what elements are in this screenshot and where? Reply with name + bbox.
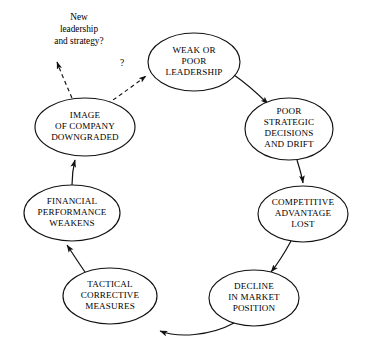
diagram-canvas: WEAK OR POOR LEADERSHIP POOR STRATEGIC D… [0, 0, 366, 350]
node-financial-performance-weakens[interactable]: FINANCIAL PERFORMANCE WEAKENS [24, 185, 120, 241]
edge-financial-to-image [72, 160, 75, 185]
annotation-question-mark: ? [120, 58, 124, 68]
node-label-line: STRATEGIC [264, 117, 314, 127]
node-label-line: LOST [291, 219, 315, 229]
question-mark-label: ? [120, 58, 124, 68]
node-label-line: CORRECTIVE [81, 290, 140, 300]
edge-tactical-to-financial [67, 245, 85, 272]
annotation-line: New [70, 12, 88, 22]
node-label-line: IMAGE [70, 110, 101, 120]
edge-competitive-to-decline [271, 241, 291, 272]
node-tactical-corrective-measures[interactable]: TACTICAL CORRECTIVE MEASURES [63, 268, 157, 324]
annotation-line: leadership [60, 24, 99, 34]
node-decline-in-market-position[interactable]: DECLINE IN MARKET POSITION [209, 270, 299, 326]
edge-strategic-to-competitive [297, 160, 303, 183]
node-poor-strategic-decisions-and-drift[interactable]: POOR STRATEGIC DECISIONS AND DRIFT [245, 98, 333, 160]
edge-image-to-new-leadership [57, 62, 72, 98]
node-label-line: AND DRIFT [264, 139, 314, 149]
node-label-line: DOWNGRADED [51, 132, 119, 142]
node-label-line: DECLINE [234, 281, 274, 291]
node-image-of-company-downgraded[interactable]: IMAGE OF COMPANY DOWNGRADED [35, 98, 135, 156]
node-label-line: WEAKENS [49, 218, 95, 228]
node-label-line: COMPETITIVE [272, 197, 335, 207]
edge-image-to-leadership [107, 76, 146, 104]
node-label-line: IN MARKET [228, 292, 280, 302]
annotation-line: and strategy? [54, 36, 103, 46]
node-label-line: POSITION [233, 303, 276, 313]
node-label-line: POOR [277, 106, 303, 116]
node-label-line: DECISIONS [265, 128, 314, 138]
annotation-new-leadership-and-strategy: New leadership and strategy? [54, 12, 103, 46]
node-label-line: FINANCIAL [47, 196, 98, 206]
node-label-line: TACTICAL [87, 279, 133, 289]
node-competitive-advantage-lost[interactable]: COMPETITIVE ADVANTAGE LOST [258, 186, 348, 242]
node-weak-or-poor-leadership[interactable]: WEAK OR POOR LEADERSHIP [148, 33, 240, 91]
cycle-diagram: WEAK OR POOR LEADERSHIP POOR STRATEGIC D… [0, 0, 366, 350]
node-label-line: PERFORMANCE [38, 207, 107, 217]
node-label-line: OF COMPANY [55, 121, 115, 131]
node-label-line: WEAK OR [172, 45, 216, 55]
edge-decline-to-tactical [160, 323, 234, 335]
node-label-line: POOR [182, 56, 208, 66]
node-label-line: MEASURES [85, 301, 135, 311]
edge-leadership-to-strategic [234, 75, 268, 104]
node-label-line: LEADERSHIP [165, 67, 222, 77]
node-label-line: ADVANTAGE [275, 208, 332, 218]
